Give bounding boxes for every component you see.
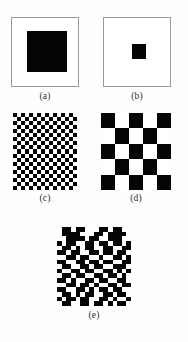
- checker-cell: [115, 144, 129, 159]
- panel-a-label: (a): [39, 92, 50, 102]
- checker-cell: [129, 144, 143, 159]
- checker-cell: [143, 113, 157, 128]
- checker-cell: [115, 175, 129, 190]
- panel-d-image: [101, 113, 171, 190]
- checker-cell: [129, 175, 143, 190]
- checker-cell: [115, 159, 129, 174]
- checker-cell: [101, 159, 115, 174]
- checker-cell: [101, 128, 115, 143]
- checker-cell: [101, 144, 115, 159]
- large-black-square: [27, 31, 67, 72]
- panel-d: (d): [101, 113, 171, 204]
- coarse-checkerboard-grid: [101, 113, 171, 190]
- checker-cell: [157, 144, 171, 159]
- panel-c-label: (c): [39, 194, 50, 204]
- checker-cell: [157, 128, 171, 143]
- panel-b-label: (b): [131, 92, 143, 102]
- checker-cell: [157, 175, 171, 190]
- checker-cell: [157, 159, 171, 174]
- checker-cell: [101, 113, 115, 128]
- panel-e-label: (e): [88, 311, 99, 321]
- noise-cell: [126, 301, 131, 306]
- checker-cell: [129, 113, 143, 128]
- figure-root: (a) (b) (c) (d) (e): [0, 0, 188, 342]
- checker-cell: [157, 113, 171, 128]
- panel-b: (b): [103, 17, 171, 102]
- checker-cell: [129, 159, 143, 174]
- panel-e: (e): [57, 227, 131, 321]
- small-black-square: [132, 44, 146, 59]
- checker-cell: [73, 186, 77, 190]
- checker-cell: [115, 128, 129, 143]
- panel-b-image: [103, 17, 171, 87]
- checker-cell: [143, 159, 157, 174]
- panel-a: (a): [11, 17, 79, 102]
- panel-a-image: [11, 17, 79, 87]
- fine-checkerboard-grid: [13, 113, 77, 190]
- checker-cell: [129, 128, 143, 143]
- panel-e-image: [57, 227, 131, 306]
- checker-cell: [143, 128, 157, 143]
- checker-cell: [143, 175, 157, 190]
- random-noise-grid: [57, 227, 131, 306]
- checker-cell: [143, 144, 157, 159]
- panel-d-label: (d): [130, 194, 142, 204]
- panel-c: (c): [13, 113, 77, 204]
- checker-cell: [101, 175, 115, 190]
- checker-cell: [115, 113, 129, 128]
- panel-c-image: [13, 113, 77, 190]
